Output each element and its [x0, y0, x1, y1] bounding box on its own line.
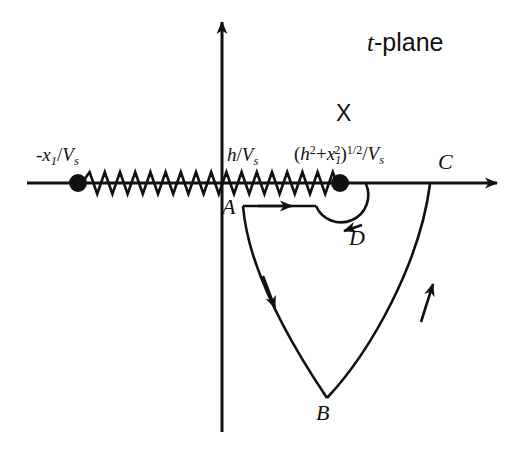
v-variable: V [368, 143, 380, 164]
v-subscript: s [253, 154, 258, 168]
page-title: t-plane [367, 30, 443, 55]
h-variable: h [300, 143, 310, 164]
contour-point-c-label: C [438, 151, 453, 173]
v-variable: V [62, 144, 74, 165]
origin-offset-label: h/Vs [227, 145, 258, 167]
left-branch-point-label: -x1/Vs [36, 145, 79, 167]
pole-cross-marker: X [336, 102, 351, 125]
contour-point-b-label: B [316, 402, 329, 424]
h-variable: h [227, 144, 237, 165]
plus-sign: + [316, 143, 327, 164]
half-power: 1/2 [347, 143, 363, 157]
contour-point-a-label: A [222, 196, 235, 218]
diagram-canvas [0, 0, 528, 452]
x-variable: x [42, 144, 50, 165]
contour-point-d-label: D [349, 227, 365, 249]
plane-suffix: -plane [374, 28, 444, 56]
right-branch-point-dot [331, 174, 349, 192]
t-plane-contour-figure: t-plane -x1/Vs h/Vs X (h2+x12)1/2/Vs A D… [0, 0, 528, 452]
left-branch-point-dot [69, 174, 87, 192]
v-subscript: s [379, 153, 384, 167]
plane-variable: t [367, 29, 374, 56]
contour-branch-a-to-b [243, 206, 327, 398]
v-variable: V [242, 144, 254, 165]
contour-branch-b-to-c [327, 184, 433, 398]
right-branch-point-label: (h2+x12)1/2/Vs [294, 144, 384, 166]
v-subscript: s [74, 154, 79, 168]
